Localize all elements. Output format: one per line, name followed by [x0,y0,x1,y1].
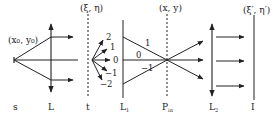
conv-order-label-0: 0 [136,50,141,60]
order-label-2: 2 [106,32,111,42]
conv-order-label-minus1: −1 [141,63,154,73]
plane-label-s: s [13,102,18,112]
plane-label-L1: L1 [120,102,129,113]
optical-diagram: (x₀, y₀) (ξ, η) (x, y) (ξ′, η′) 2 1 0 −1… [0,0,277,124]
plane-label-L: L [48,102,54,112]
image-coord-label: (ξ′, η′) [243,5,270,15]
source-coord-label: (x₀, y₀) [8,35,38,45]
order-label-minus2: −2 [100,79,113,89]
converging-rays [123,37,203,84]
order-label-minus1: −1 [105,68,118,78]
plane-label-t: t [86,102,90,112]
input-coord-label: (x, y) [159,3,182,13]
order-label-0: 0 [113,55,118,65]
plane-label-Pin: Pin [162,102,174,113]
output-rays [216,37,244,86]
conv-order-label-1: 1 [145,38,150,48]
grating-coord-label: (ξ, η) [80,3,103,13]
plane-label-L2: L2 [209,102,218,113]
plane-label-I: I [251,102,255,112]
order-label-1: 1 [110,42,115,52]
